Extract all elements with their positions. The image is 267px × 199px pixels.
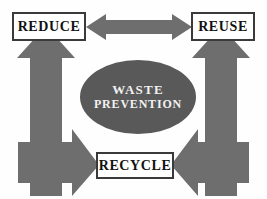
waste-prevention-ellipse [80, 60, 196, 134]
node-reduce-label: REDUCE [18, 19, 81, 35]
reduce-reuse-bidirectional-arrow [86, 14, 192, 40]
node-reuse: REUSE [191, 12, 255, 41]
waste-hierarchy-diagram: WASTE PREVENTION REDUCE REUSE RECYCLE [0, 0, 267, 199]
node-reduce: REDUCE [12, 12, 86, 41]
node-reuse-label: REUSE [198, 19, 248, 35]
node-recycle-label: RECYCLE [99, 158, 172, 174]
node-recycle: RECYCLE [96, 152, 174, 179]
